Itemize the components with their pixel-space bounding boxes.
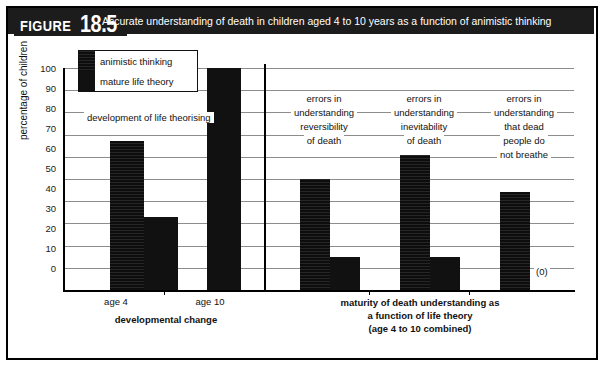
y-axis-title: percentage of children: [18, 41, 29, 140]
x-tick-right-1: [369, 290, 370, 295]
y-tick-100: 100: [30, 63, 56, 74]
left-panel-axis-title: developmental change: [78, 313, 254, 326]
plot-area: (0) development of life theorising error…: [64, 68, 574, 290]
annotation-g3-line3: that dead: [501, 120, 547, 134]
x-tick-right-2: [469, 290, 470, 295]
annotation-g3-line4: people do: [500, 134, 548, 148]
bar-reversibility-mature: [330, 257, 360, 290]
legend-item-animistic-thinking: animistic thinking: [79, 51, 197, 72]
annotation-g1-line3: reversibility: [297, 120, 351, 134]
legend-label-animistic: animistic thinking: [95, 56, 172, 67]
figure-label-word: FIGURE: [20, 18, 71, 36]
y-tick-0: 0: [30, 263, 56, 274]
annotation-group-inevitability: errors in understanding inevitability of…: [378, 92, 470, 148]
right-panel-axis-title-line3: (age 4 to 10 combined): [300, 322, 540, 335]
y-tick-70: 70: [30, 123, 56, 134]
bar-age4-animistic: [110, 141, 144, 290]
bar-inevitability-mature: [430, 257, 460, 290]
right-panel-axis-title: maturity of death understanding as a fun…: [300, 296, 540, 335]
annotation-g3-line1: errors in: [504, 92, 545, 106]
annotation-g2-line4: of death: [404, 134, 444, 148]
legend-label-mature: mature life theory: [95, 76, 173, 87]
bar-reversibility-animistic: [300, 179, 330, 290]
y-tick-20: 20: [30, 223, 56, 234]
y-tick-80: 80: [30, 103, 56, 114]
annotation-g3-line2: understanding: [491, 106, 557, 120]
bar-inevitability-animistic: [400, 155, 430, 290]
annotation-g1-line1: errors in: [304, 92, 345, 106]
annotation-g2-line1: errors in: [404, 92, 445, 106]
x-tick-left-1: [164, 290, 165, 295]
annotation-g2-line2: understanding: [391, 106, 457, 120]
y-tick-90: 90: [30, 83, 56, 94]
annotation-group-not-breathe: errors in understanding that dead people…: [476, 92, 572, 162]
x-axis-line: [63, 290, 575, 292]
y-tick-10: 10: [30, 243, 56, 254]
legend-swatch-mature-icon: [79, 71, 95, 92]
y-tick-30: 30: [30, 203, 56, 214]
y-tick-50: 50: [30, 163, 56, 174]
zero-value-label: (0): [534, 266, 550, 277]
y-axis-line: [63, 68, 65, 291]
annotation-g1-line4: of death: [304, 134, 344, 148]
panel-divider: [264, 64, 266, 292]
x-category-age-10: age 10: [180, 296, 240, 307]
y-tick-60: 60: [30, 143, 56, 154]
x-category-age-4: age 4: [86, 296, 146, 307]
annotation-development-of-life-theorising: development of life theorising: [84, 112, 214, 123]
annotation-g2-line3: inevitability: [398, 120, 450, 134]
figure-root: FIGURE 18.5 Accurate understanding of de…: [0, 0, 606, 369]
right-panel-axis-title-line2: a function of life theory: [300, 309, 540, 322]
chart-legend: animistic thinking mature life theory: [78, 50, 198, 92]
bar-age10-animistic: [207, 68, 241, 290]
annotation-group-reversibility: errors in understanding reversibility of…: [278, 92, 370, 148]
figure-caption: Accurate understanding of death in child…: [102, 14, 588, 28]
right-panel-axis-title-line1: maturity of death understanding as: [300, 296, 540, 309]
bar-not-breathe-animistic: [500, 192, 530, 290]
annotation-g1-line2: understanding: [291, 106, 357, 120]
legend-swatch-animistic-icon: [79, 51, 95, 72]
bar-age4-mature: [144, 217, 178, 290]
y-tick-40: 40: [30, 183, 56, 194]
legend-item-mature-life-theory: mature life theory: [79, 71, 197, 92]
annotation-g3-line5: not breathe: [497, 148, 551, 162]
